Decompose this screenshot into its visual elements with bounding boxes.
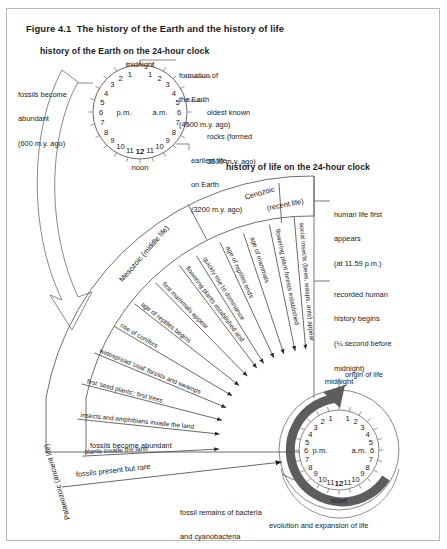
bottom-clock-numeral-am-2: 2 <box>353 417 357 426</box>
top-clock-numeral-am-5: 5 <box>176 97 180 106</box>
bottom-clock-numeral-pm-3: 3 <box>314 422 318 431</box>
top-clock-numeral-pm-9: 9 <box>110 135 114 144</box>
top-clock-numeral-pm-6: 6 <box>99 108 103 117</box>
top-clock-numeral-pm-5: 5 <box>100 97 104 106</box>
top-clock-numeral-pm-10: 10 <box>116 141 124 150</box>
top-clock-numeral-pm-12: 12 <box>136 147 144 156</box>
top-clock-am-label: a.m. <box>153 108 168 117</box>
top-clock-numeral-am-9: 9 <box>165 135 169 144</box>
top-clock-numeral-pm-3: 3 <box>110 80 114 89</box>
bottom-clock-numeral-pm-1: 1 <box>328 414 332 423</box>
top-clock-numeral-pm-7: 7 <box>100 118 104 127</box>
top-clock-midnight-label: midnight <box>126 60 155 69</box>
top-clock-numeral-am-7: 7 <box>176 118 180 127</box>
top-clock-numeral-am-8: 8 <box>172 127 176 136</box>
top-clock-numeral-pm-2: 2 <box>118 74 122 83</box>
bottom-clock-numeral-pm-8: 8 <box>308 462 312 471</box>
event-line-flowering-dominance2 <box>196 256 263 364</box>
top-clock-numeral-am-2: 2 <box>157 74 161 83</box>
bottom-clock-am-label: a.m. <box>352 446 367 455</box>
top-clock-numeral-am-6: 6 <box>177 108 181 117</box>
top-clock-numeral-am-11: 11 <box>146 145 154 154</box>
bottom-clock-numeral-am-1: 1 <box>345 414 349 423</box>
bottom-clock-numeral-pm-11: 11 <box>327 477 335 486</box>
top-clock-numeral-pm-8: 8 <box>104 127 108 136</box>
top-clock-numeral-am-1: 1 <box>148 70 152 79</box>
label-fossil-bacteria: fossil remains of bacteria and cyanobact… <box>180 492 262 549</box>
top-clock-numeral-am-3: 3 <box>165 80 169 89</box>
label-evolution-expansion: evolution and expansion of life <box>269 522 368 530</box>
bottom-clock-numeral-pm-12: 12 <box>335 479 343 488</box>
bottom-clock-pm-label: p.m. <box>313 446 328 455</box>
right-callout-leaders <box>314 176 330 398</box>
callout-human-life: human life first appears (at 11.59 p.m.) <box>334 194 382 285</box>
bottom-clock-numeral-pm-10: 10 <box>318 474 326 483</box>
bottom-clock-numeral-am-11: 11 <box>344 477 352 486</box>
top-clock-numeral-pm-11: 11 <box>126 145 134 154</box>
top-clock-pm-label: p.m. <box>117 108 132 117</box>
bottom-clock-numeral-pm-9: 9 <box>314 469 318 478</box>
bottom-clock-numeral-am-10: 10 <box>351 474 359 483</box>
top-clock-numeral-pm-1: 1 <box>128 70 132 79</box>
bottom-clock-numeral-pm-2: 2 <box>320 417 324 426</box>
figure-title: Figure 4.1 The history of the Earth and … <box>26 24 284 35</box>
bottom-clock-noon-label: noon <box>331 496 348 505</box>
top-clock-numeral-pm-4: 4 <box>104 88 108 97</box>
top-clock-numeral-am-10: 10 <box>155 141 163 150</box>
callout-earliest-life: earliest life on Earth (3200 m.y. ago) <box>191 140 242 231</box>
label-origin-of-life: origin of life <box>345 371 383 379</box>
bottom-clock-numeral-am-9: 9 <box>360 469 364 478</box>
bottom-clock-numeral-am-3: 3 <box>360 422 364 431</box>
bottom-clock-numeral-am-8: 8 <box>365 462 369 471</box>
top-clock-noon-label: noon <box>132 163 149 172</box>
figure-stage: Figure 4.1 The history of the Earth and … <box>0 0 447 549</box>
top-clock-numeral-am-4: 4 <box>172 88 176 97</box>
callout-fossils-abundant: fossils become abundant (600 m.y. ago) <box>18 74 80 165</box>
